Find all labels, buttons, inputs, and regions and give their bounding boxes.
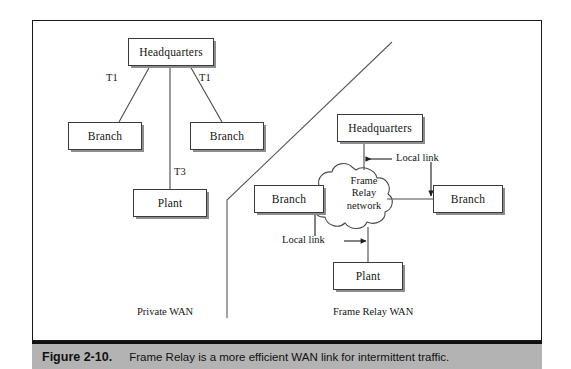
node-private-branch-left[interactable]: Branch bbox=[68, 122, 142, 150]
link-label-t3: T3 bbox=[174, 166, 186, 177]
figure-caption-text: Frame Relay is a more efficient WAN link… bbox=[129, 351, 449, 363]
cloud-label-line-1: Frame bbox=[330, 175, 398, 187]
node-label: Branch bbox=[88, 130, 122, 142]
figure-caption-number: Figure 2-10. bbox=[42, 350, 112, 364]
section-label-private-wan: Private WAN bbox=[137, 306, 193, 317]
section-label-frame-relay-wan: Frame Relay WAN bbox=[333, 306, 413, 317]
node-fr-branch-right[interactable]: Branch bbox=[433, 185, 503, 213]
node-label: Plant bbox=[356, 270, 381, 282]
figure-frame bbox=[32, 20, 542, 341]
node-fr-plant[interactable]: Plant bbox=[333, 262, 403, 290]
node-fr-headquarters[interactable]: Headquarters bbox=[337, 114, 423, 142]
frame-relay-cloud-label: Frame Relay network bbox=[330, 175, 398, 212]
link-label-t1-right: T1 bbox=[199, 72, 211, 83]
annotation-local-link-lower: Local link bbox=[282, 234, 325, 245]
node-label: Branch bbox=[451, 193, 485, 205]
link-label-t1-left: T1 bbox=[106, 72, 118, 83]
node-label: Branch bbox=[210, 130, 244, 142]
annotation-local-link-upper: Local link bbox=[396, 152, 439, 163]
node-private-headquarters[interactable]: Headquarters bbox=[128, 38, 214, 66]
figure-screenshot: Headquarters Branch Branch Plant T1 T1 T… bbox=[0, 0, 571, 369]
node-private-branch-right[interactable]: Branch bbox=[190, 122, 264, 150]
node-private-plant[interactable]: Plant bbox=[133, 189, 207, 217]
node-label: Headquarters bbox=[348, 122, 412, 134]
node-label: Headquarters bbox=[139, 46, 203, 58]
node-label: Plant bbox=[158, 197, 183, 209]
node-label: Branch bbox=[272, 193, 306, 205]
node-fr-branch-left[interactable]: Branch bbox=[254, 185, 324, 213]
figure-caption-bar: Figure 2-10. Frame Relay is a more effic… bbox=[32, 341, 542, 369]
cloud-label-line-2: Relay bbox=[330, 187, 398, 199]
cloud-label-line-3: network bbox=[330, 200, 398, 212]
